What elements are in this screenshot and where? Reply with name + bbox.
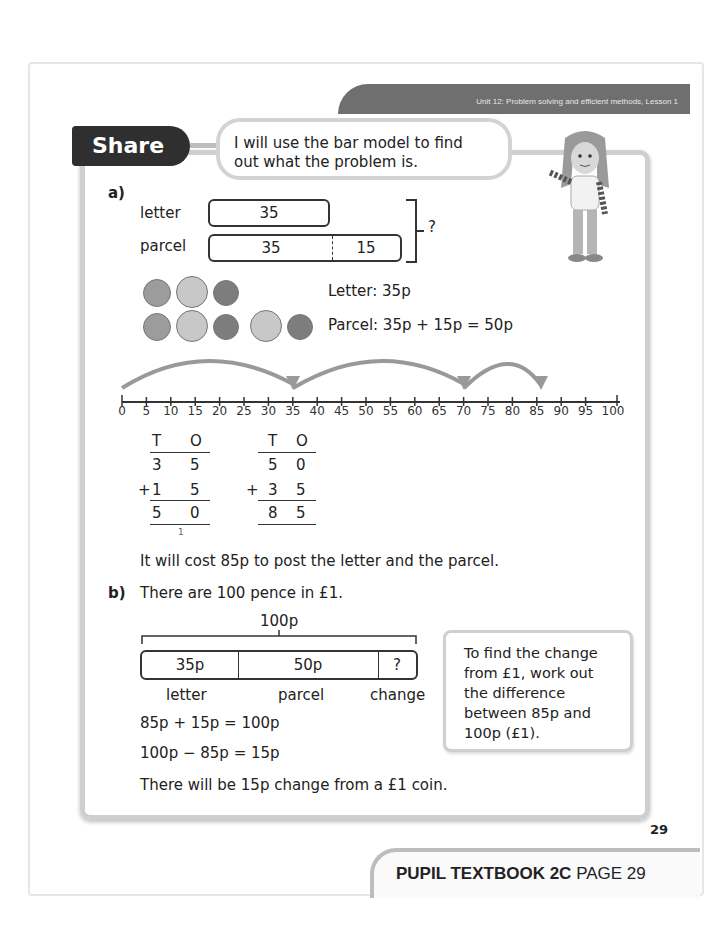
col2-bottom-o: 5 (296, 481, 306, 499)
coin-20p-icon (143, 313, 171, 341)
footer-book: PUPIL TEXTBOOK 2C (396, 864, 571, 883)
tick-label: 45 (330, 404, 354, 418)
col1-top-t: 3 (152, 456, 162, 474)
col1-result-o: 0 (190, 504, 200, 522)
bar-parcel: 35 15 (208, 234, 402, 262)
bar-b-label-letter: letter (166, 686, 207, 704)
tick-label: 95 (574, 404, 598, 418)
equation-1: 85p + 15p = 100p (140, 714, 280, 732)
part-b-label: b) (108, 584, 126, 602)
col1-plus: + (138, 481, 151, 499)
note-line: the difference (464, 683, 630, 703)
footer-page: PAGE 29 (576, 864, 646, 883)
page-number: 29 (650, 822, 668, 837)
bar-total-unknown: ? (428, 218, 436, 236)
bar-parcel-seg-2: 15 (332, 236, 400, 260)
number-line (110, 346, 640, 406)
coin-5p-icon (287, 314, 313, 340)
col1-bottom-o: 5 (190, 481, 200, 499)
bar-row-label-letter: letter (140, 204, 181, 222)
col2-rule (258, 524, 316, 525)
tick-label: 40 (305, 404, 329, 418)
note-line: between 85p and (464, 703, 630, 723)
bar-letter: 35 (208, 199, 330, 227)
note-line: 100p (£1). (464, 723, 630, 743)
tick-label: 70 (452, 404, 476, 418)
total-brace-icon (140, 630, 420, 646)
hint-note: To find the change from £1, work out the… (443, 630, 633, 752)
tick-label: 35 (281, 404, 305, 418)
col1-bottom-t: 1 (152, 481, 162, 499)
col2-top-o: 0 (296, 456, 306, 474)
parcel-cost-text: Parcel: 35p + 15p = 50p (328, 316, 513, 334)
tick-label: 5 (134, 404, 158, 418)
coin-10p-icon (176, 276, 208, 308)
letter-cost-text: Letter: 35p (328, 282, 411, 300)
tick-label: 25 (232, 404, 256, 418)
tick-label: 20 (208, 404, 232, 418)
col2-header-o: O (296, 432, 308, 450)
col2-rule (258, 500, 316, 501)
part-b-intro: There are 100 pence in £1. (140, 584, 343, 602)
note-line: To find the change (464, 643, 630, 663)
tick-label: 30 (256, 404, 280, 418)
col1-header-t: T (152, 432, 161, 450)
tick-label: 60 (403, 404, 427, 418)
tick-label: 55 (378, 404, 402, 418)
unit-banner: Unit 12: Problem solving and efficient m… (338, 84, 690, 114)
col1-result-t: 5 (152, 504, 162, 522)
girl-character-icon (545, 128, 625, 268)
tick-label: 90 (549, 404, 573, 418)
note-line: from £1, work out (464, 663, 630, 683)
tick-label: 85 (525, 404, 549, 418)
col2-bottom-t: 3 (268, 481, 278, 499)
bar-b: 35p 50p ? (140, 650, 418, 680)
bar-b-seg-parcel: 50p (238, 652, 378, 678)
bar-b-label-change: change (370, 686, 425, 704)
col1-top-o: 5 (190, 456, 200, 474)
footer-label: PUPIL TEXTBOOK 2C PAGE 29 (396, 864, 646, 884)
bar-b-seg-change: ? (378, 652, 416, 678)
tick-label: 50 (354, 404, 378, 418)
coin-5p-icon (213, 314, 239, 340)
tick-label: 75 (476, 404, 500, 418)
bar-letter-value: 35 (259, 204, 278, 222)
speech-bubble: I will use the bar model to find out wha… (216, 118, 512, 180)
col1-header-o: O (190, 432, 202, 450)
bar-row-label-parcel: parcel (140, 237, 186, 255)
part-a-label: a) (108, 184, 125, 202)
share-tab: Share (72, 126, 190, 166)
coin-5p-icon (213, 280, 239, 306)
tick-label: 0 (110, 404, 134, 418)
bar-parcel-seg-1: 35 (210, 236, 332, 260)
col1-carry: 1 (178, 527, 184, 537)
col1-rule (150, 524, 210, 525)
coin-20p-icon (143, 279, 171, 307)
tick-label: 65 (427, 404, 451, 418)
tick-label: 100 (601, 404, 625, 418)
bar-b-label-parcel: parcel (278, 686, 324, 704)
equation-2: 100p − 85p = 15p (140, 744, 280, 762)
bar-b-total: 100p (260, 612, 298, 630)
col1-rule (150, 500, 210, 501)
col2-top-t: 5 (268, 456, 278, 474)
tick-label: 15 (183, 404, 207, 418)
coin-10p-icon (176, 310, 208, 342)
coin-10p-icon (250, 310, 282, 342)
col2-result-t: 8 (268, 504, 278, 522)
tick-label: 80 (500, 404, 524, 418)
speech-line-2: out what the problem is. (234, 153, 508, 172)
bar-b-seg-letter: 35p (142, 652, 238, 678)
col1-rule (150, 452, 210, 453)
col2-rule (258, 452, 316, 453)
col2-header-t: T (268, 432, 277, 450)
col2-plus: + (246, 481, 259, 499)
part-a-conclusion: It will cost 85p to post the letter and … (140, 552, 499, 570)
part-b-conclusion: There will be 15p change from a £1 coin. (140, 776, 448, 794)
speech-line-1: I will use the bar model to find (234, 134, 508, 153)
col2-result-o: 5 (296, 504, 306, 522)
tick-label: 10 (159, 404, 183, 418)
